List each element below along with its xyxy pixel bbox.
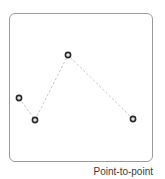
point-marker-3: [65, 52, 70, 57]
point-markers: [16, 52, 135, 122]
point-marker-4: [130, 116, 135, 121]
point-marker-1: [16, 95, 21, 100]
point-marker-2: [32, 117, 37, 122]
dashed-connector-line: [19, 55, 133, 120]
diagram-caption: Point-to-point: [94, 166, 153, 178]
point-to-point-plot: [0, 0, 165, 179]
